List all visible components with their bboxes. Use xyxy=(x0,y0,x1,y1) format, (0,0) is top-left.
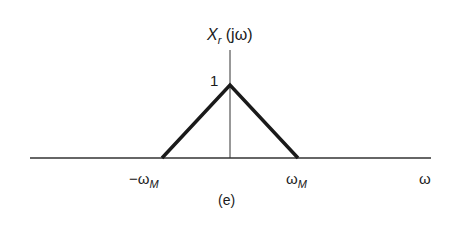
x-axis-label: ω xyxy=(419,171,431,186)
pos-tick-main: ω xyxy=(286,170,298,187)
title-main: X xyxy=(207,26,218,43)
neg-omega-m-label: −ωM xyxy=(129,171,159,190)
neg-tick-sub: M xyxy=(149,178,158,190)
title-arg: (jω) xyxy=(221,26,252,43)
y-axis-label: Xr (jω) xyxy=(207,27,253,46)
pos-omega-m-label: ωM xyxy=(286,171,307,190)
pos-tick-sub: M xyxy=(298,178,307,190)
peak-label: 1 xyxy=(210,73,218,88)
figure-caption: (e) xyxy=(218,193,235,207)
neg-tick-main: −ω xyxy=(129,170,149,187)
